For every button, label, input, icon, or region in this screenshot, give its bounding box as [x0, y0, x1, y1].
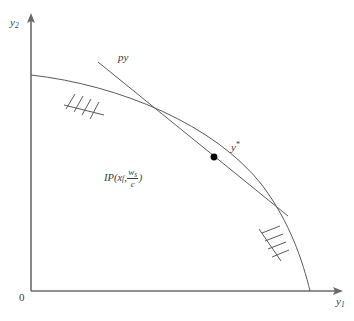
- lower-right-hatch-group: [259, 226, 289, 261]
- optimum-label-superscript: *: [236, 140, 240, 149]
- ip-fraction: ws c: [127, 168, 138, 189]
- hatch-mark: [90, 102, 99, 119]
- x-axis-label: y1: [336, 296, 345, 308]
- optimum-point-marker: [211, 154, 218, 161]
- upper-left-hatch-group: [64, 94, 104, 119]
- x-axis-label-subscript: 1: [341, 300, 345, 309]
- hatch-spine: [64, 105, 104, 115]
- y-axis-label-subscript: 2: [15, 21, 19, 30]
- ip-fraction-numerator-subscript: s: [134, 169, 137, 178]
- ip-suffix: ): [139, 173, 143, 184]
- x-axis: [31, 287, 343, 295]
- hatch-mark: [262, 226, 280, 233]
- y-axis: [27, 13, 35, 291]
- y-axis-label: y2: [10, 17, 19, 29]
- origin-label: 0: [19, 292, 25, 303]
- indirect-production-label: IP(xf, ws c ): [104, 168, 142, 189]
- price-tangent-line: [98, 62, 288, 216]
- ip-fraction-numerator: ws: [127, 168, 138, 179]
- hatch-mark: [265, 234, 283, 241]
- price-line-label: py: [118, 52, 128, 63]
- ip-fraction-denominator: c: [130, 179, 136, 189]
- hatch-mark: [82, 99, 91, 115]
- ip-prefix: IP(x: [104, 173, 122, 184]
- optimum-label: y*: [231, 141, 240, 153]
- ppf-diagram-svg: [0, 0, 354, 321]
